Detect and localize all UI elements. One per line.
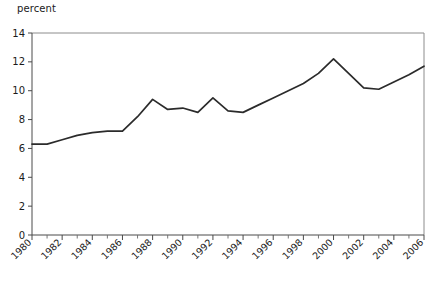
x-tick-label: 2004 [370,237,395,262]
y-tick-label: 14 [12,28,25,39]
x-tick-label: 1998 [280,237,305,262]
x-tick-label: 1996 [250,237,275,262]
y-tick-label: 4 [19,172,25,183]
x-tick-label: 1986 [99,237,124,262]
y-tick-label: 2 [19,201,25,212]
plot-frame [32,33,424,235]
x-tick-label: 1984 [69,237,94,262]
x-tick-label: 2002 [340,237,365,262]
y-tick-label: 10 [12,85,25,96]
data-series-line [32,59,424,144]
x-axis-ticks: 1980198219841986198819901992199419961998… [9,235,426,262]
chart-figure: percent 02468101214 19801982198419861988… [0,0,444,284]
y-tick-label: 12 [12,56,25,67]
x-tick-label: 1994 [220,237,245,262]
x-tick-label: 1990 [159,237,184,262]
x-tick-label: 1988 [129,237,154,262]
x-tick-label: 1992 [189,237,214,262]
x-tick-label: 2006 [401,237,426,262]
y-tick-label: 8 [19,114,25,125]
x-tick-label: 1982 [39,237,64,262]
y-axis-ticks: 02468101214 [12,28,32,241]
x-tick-label: 1980 [9,237,34,262]
line-chart-plot: 02468101214 1980198219841986198819901992… [0,0,444,284]
x-tick-label: 2000 [310,237,335,262]
series-percent-line [32,59,424,144]
y-tick-label: 6 [19,143,25,154]
